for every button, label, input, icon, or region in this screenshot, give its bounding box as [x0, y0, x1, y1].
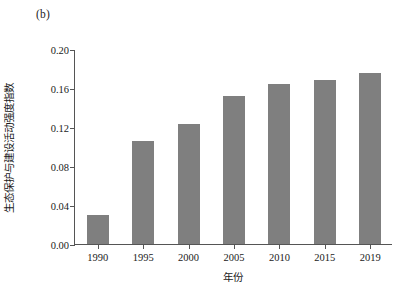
bar — [132, 141, 154, 244]
bar-slot — [314, 50, 336, 244]
bar-slot — [132, 50, 154, 244]
x-tick-label: 1995 — [133, 252, 154, 264]
x-tick-label: 2015 — [314, 252, 335, 264]
y-tick-mark — [70, 206, 75, 207]
y-tick-mark — [70, 128, 75, 129]
y-tick-mark — [70, 50, 75, 51]
x-axis-title: 年份 — [74, 272, 392, 284]
y-axis-title: 生态保护与建设活动强度指数 — [2, 50, 18, 245]
bar-series — [75, 50, 392, 244]
y-tick-label: 0.16 — [51, 84, 69, 95]
y-tick-mark — [70, 89, 75, 90]
x-tick-mark — [189, 244, 190, 249]
bar — [314, 80, 336, 244]
x-tick-mark — [370, 244, 371, 249]
panel-label: (b) — [36, 8, 50, 21]
y-tick-mark — [70, 245, 75, 246]
y-tick-label: 0.08 — [51, 162, 69, 173]
bar — [223, 96, 245, 244]
x-tick-mark — [279, 244, 280, 249]
bar — [178, 124, 200, 244]
bar-slot — [359, 50, 381, 244]
y-tick-label: 0.04 — [51, 201, 69, 212]
y-tick-label: 0.12 — [51, 123, 69, 134]
y-axis-title-text: 生态保护与建设活动强度指数 — [4, 83, 16, 213]
x-tick-mark — [143, 244, 144, 249]
bar-slot — [87, 50, 109, 244]
figure-panel-b: (b) 生态保护与建设活动强度指数 0.000.040.080.120.160.… — [0, 0, 408, 294]
x-tick-label: 2005 — [224, 252, 245, 264]
bar-slot — [223, 50, 245, 244]
x-tick-label: 2000 — [178, 252, 199, 264]
x-tick-label: 2019 — [360, 252, 381, 264]
x-tick-mark — [98, 244, 99, 249]
y-tick-label: 0.20 — [51, 45, 69, 56]
bar — [87, 215, 109, 244]
bar — [268, 84, 290, 244]
y-tick-mark — [70, 167, 75, 168]
x-tick-label: 1990 — [87, 252, 108, 264]
y-tick-label: 0.00 — [51, 240, 69, 251]
bar-slot — [178, 50, 200, 244]
bar — [359, 73, 381, 244]
x-tick-mark — [325, 244, 326, 249]
x-tick-label: 2010 — [269, 252, 290, 264]
x-tick-mark — [234, 244, 235, 249]
plot-area: 0.000.040.080.120.160.20 199019952000200… — [74, 50, 392, 245]
bar-slot — [268, 50, 290, 244]
